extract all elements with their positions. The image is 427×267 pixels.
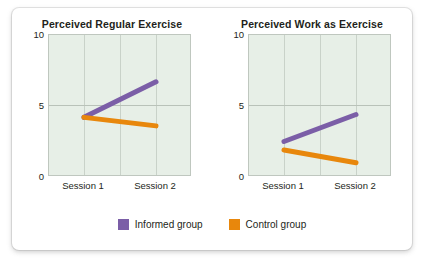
x-tick-label: Session 2 xyxy=(334,180,376,191)
series-line-control-group xyxy=(284,150,356,163)
y-tick-label: 10 xyxy=(12,29,44,40)
plot-area xyxy=(248,34,391,176)
legend-item-control-group: Control group xyxy=(229,219,307,230)
legend-label: Control group xyxy=(246,219,307,230)
x-tick-label: Session 1 xyxy=(62,180,104,191)
chart-legend: Informed group Control group xyxy=(12,204,412,244)
x-tick-label: Session 2 xyxy=(134,180,176,191)
legend-swatch-control-icon xyxy=(229,219,240,230)
y-tick-label: 10 xyxy=(212,29,244,40)
legend-label: Informed group xyxy=(135,219,203,230)
y-axis-ticks: 10 5 0 xyxy=(212,34,244,176)
series-line-informed-group xyxy=(84,82,156,118)
plot-area xyxy=(48,34,191,176)
figure-card: Perceived Regular Exercise 10 5 0 Sessio… xyxy=(12,8,412,250)
y-axis-ticks: 10 5 0 xyxy=(12,34,44,176)
y-tick-label: 5 xyxy=(212,100,244,111)
chart-panel-perceived-regular-exercise: Perceived Regular Exercise 10 5 0 Sessio… xyxy=(12,8,212,204)
series-line-informed-group xyxy=(284,115,356,142)
y-tick-label: 5 xyxy=(12,100,44,111)
series-lines xyxy=(49,35,192,177)
y-tick-label: 0 xyxy=(12,171,44,182)
legend-item-informed-group: Informed group xyxy=(118,219,203,230)
series-lines xyxy=(249,35,392,177)
legend-swatch-informed-icon xyxy=(118,219,129,230)
charts-row: Perceived Regular Exercise 10 5 0 Sessio… xyxy=(12,8,412,204)
x-tick-label: Session 1 xyxy=(262,180,304,191)
series-line-control-group xyxy=(84,117,156,126)
y-tick-label: 0 xyxy=(212,171,244,182)
chart-panel-perceived-work-as-exercise: Perceived Work as Exercise 10 5 0 Sessio… xyxy=(212,8,412,204)
